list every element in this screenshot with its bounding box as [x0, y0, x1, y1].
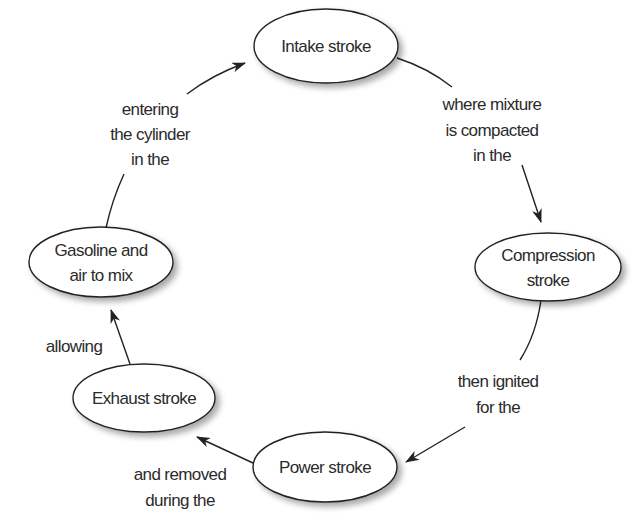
- edge-label-line: then ignited: [458, 372, 539, 391]
- edge-label-line: the cylinder: [110, 125, 191, 144]
- edge-label-compression-to-power: then ignited for the: [458, 372, 539, 417]
- node-intake-stroke: Intake stroke: [254, 9, 398, 83]
- node-compression-stroke-label-line1: Compression: [501, 246, 595, 265]
- edge-label-line: for the: [476, 398, 520, 417]
- edge-label-line: allowing: [46, 337, 103, 356]
- edge-label-intake-to-compression: where mixture is compacted in the: [442, 95, 542, 165]
- node-gasoline-air-mix: Gasoline and air to mix: [29, 227, 173, 297]
- connector-gasoline-to-intake-line: [106, 174, 124, 228]
- edge-label-exhaust-to-gasoline: allowing: [46, 337, 103, 356]
- connector-intake-to-compression-arrow: [522, 165, 541, 222]
- edge-label-line: and removed: [134, 465, 227, 484]
- node-intake-stroke-label: Intake stroke: [281, 37, 371, 56]
- node-gasoline-air-mix-label-line1: Gasoline and: [55, 241, 148, 260]
- node-compression-stroke: Compression stroke: [475, 233, 621, 301]
- node-exhaust-stroke-label: Exhaust stroke: [92, 389, 196, 408]
- node-power-stroke: Power stroke: [253, 432, 397, 502]
- edge-label-line: in the: [131, 150, 169, 169]
- connector-power-to-exhaust-arrow: [197, 437, 253, 463]
- node-exhaust-stroke: Exhaust stroke: [73, 364, 215, 432]
- edge-label-line: during the: [145, 491, 215, 510]
- four-stroke-cycle-diagram: Intake stroke Compression stroke Power s…: [0, 0, 643, 530]
- node-compression-stroke-label-line2: stroke: [527, 271, 570, 290]
- connector-exhaust-to-gasoline-arrow: [111, 310, 130, 364]
- edge-label-line: entering: [122, 100, 179, 119]
- edge-label-gasoline-to-intake: entering the cylinder in the: [110, 100, 191, 169]
- node-compression-stroke-shape: [475, 233, 621, 301]
- node-power-stroke-label: Power stroke: [279, 458, 371, 477]
- connector-gasoline-to-intake-arrow: [187, 63, 245, 94]
- edge-label-line: in the: [473, 146, 511, 165]
- node-gasoline-air-mix-shape: [29, 227, 173, 297]
- connector-compression-to-power-line: [520, 300, 541, 360]
- edge-label-power-to-exhaust: and removed during the: [134, 465, 227, 510]
- edge-label-line: is compacted: [446, 121, 539, 140]
- connector-intake-to-compression-line: [397, 58, 452, 87]
- node-gasoline-air-mix-label-line2: air to mix: [70, 266, 134, 285]
- edge-label-line: where mixture: [442, 95, 542, 114]
- connector-compression-to-power-arrow: [406, 427, 465, 462]
